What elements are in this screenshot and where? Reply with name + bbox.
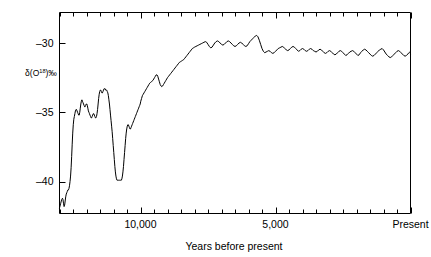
- x-tick-label: Present: [392, 218, 428, 230]
- x-tick-label: 5,000: [262, 218, 288, 230]
- chart-background: [0, 0, 431, 257]
- y-tick-label: –30: [36, 37, 54, 49]
- x-tick-label: 10,000: [124, 218, 156, 230]
- chart-figure: 10,0005,000Present –40–35–30 Years befor…: [0, 0, 431, 257]
- oxygen-isotope-line-chart: 10,0005,000Present –40–35–30 Years befor…: [0, 0, 431, 257]
- y-axis-title-tail: )‰: [46, 68, 58, 78]
- y-axis-title-base: δ(O: [25, 68, 40, 78]
- x-axis-title: Years before present: [185, 240, 282, 252]
- y-tick-label: –35: [36, 106, 54, 118]
- y-tick-label: –40: [36, 175, 54, 187]
